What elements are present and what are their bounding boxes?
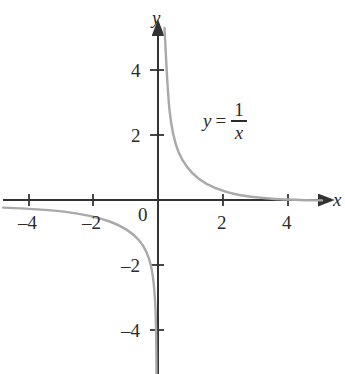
x-tick-label-pos4: 4 bbox=[282, 213, 292, 232]
y-tick-label-pos2: 2 bbox=[131, 126, 141, 145]
plot-canvas bbox=[0, 0, 345, 374]
x-tick-label-neg4: –4 bbox=[18, 213, 37, 232]
x-tick-label-neg2: –2 bbox=[82, 213, 101, 232]
fraction-numerator: 1 bbox=[231, 100, 247, 120]
origin-label: 0 bbox=[138, 205, 148, 224]
equation-lhs: y bbox=[203, 111, 211, 130]
x-tick-label-pos2: 2 bbox=[217, 213, 227, 232]
equation-fraction: 1 x bbox=[231, 100, 247, 142]
equation-operator: = bbox=[215, 111, 226, 130]
fraction-denominator: x bbox=[232, 122, 246, 142]
equation-annotation: y = 1 x bbox=[203, 100, 247, 142]
function-graph-figure: y x 0 –4 –2 2 4 4 2 –2 –4 y = 1 x bbox=[0, 0, 345, 374]
y-tick-label-neg2: –2 bbox=[121, 256, 140, 275]
y-tick-label-pos4: 4 bbox=[131, 61, 141, 80]
y-axis-label: y bbox=[152, 8, 160, 27]
x-axis-label: x bbox=[333, 190, 341, 209]
y-tick-label-neg4: –4 bbox=[121, 321, 140, 340]
